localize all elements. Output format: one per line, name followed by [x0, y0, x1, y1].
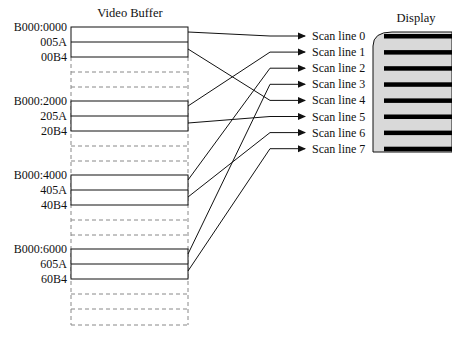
buffer-address-label: B000:6000: [14, 242, 67, 256]
buffer-address-label: 20B4: [41, 124, 67, 138]
buffer-address-label: 60B4: [41, 272, 67, 286]
buffer-bank: B000:0000005A00B4: [14, 20, 188, 64]
scan-line-label: Scan line 2: [312, 61, 365, 75]
buffer-to-scanline-arrow: [188, 149, 305, 271]
display-title: Display: [397, 11, 437, 25]
buffer-to-scanline-arrow: [188, 84, 305, 254]
scan-line-label: Scan line 0: [312, 29, 365, 43]
buffer-address-label: 205A: [40, 109, 67, 123]
scan-line-label: Scan line 4: [312, 93, 365, 107]
display-raster-line: [384, 115, 452, 120]
buffer-bank: B000:2000205A20B4: [14, 94, 188, 138]
buffer-bank: B000:6000605A60B4: [14, 242, 188, 286]
buffer-to-scanline-arrow: [188, 117, 305, 124]
connection-lines: [188, 32, 305, 271]
buffer-to-scanline-arrow: [188, 68, 305, 180]
scan-line-label: Scan line 3: [312, 77, 365, 91]
display-raster-line: [384, 82, 452, 87]
buffer-address-label: 00B4: [41, 50, 67, 64]
buffer-address-label: 40B4: [41, 198, 67, 212]
scan-line-label: Scan line 7: [312, 142, 365, 156]
scan-line-label: Scan line 6: [312, 126, 365, 140]
display-raster-line: [384, 98, 452, 103]
buffer-address-label: B000:4000: [14, 168, 67, 182]
buffer-to-scanline-arrow: [188, 49, 305, 100]
buffer-address-label: 605A: [40, 257, 67, 271]
video-buffer-title: Video Buffer: [97, 6, 163, 20]
buffer-address-label: B000:0000: [14, 20, 67, 34]
interlaced-buffer-diagram: Video Buffer Display B000:0000005A00B4B0…: [0, 0, 452, 338]
buffer-address-label: 005A: [40, 35, 67, 49]
scan-line-list: Scan line 0Scan line 1Scan line 2Scan li…: [312, 29, 365, 156]
display-raster-line: [384, 34, 452, 39]
buffer-address-label: B000:2000: [14, 94, 67, 108]
display-raster-line: [384, 131, 452, 136]
buffer-to-scanline-arrow: [188, 32, 305, 36]
video-buffer: B000:0000005A00B4B000:2000205A20B4B000:4…: [14, 20, 188, 325]
scan-line-label: Scan line 1: [312, 45, 365, 59]
buffer-bank: B000:4000405A40B4: [14, 168, 188, 212]
display-panel: [373, 32, 452, 152]
display-raster-line: [384, 147, 452, 152]
buffer-address-label: 405A: [40, 183, 67, 197]
buffer-to-scanline-arrow: [188, 133, 305, 197]
display-raster-line: [384, 50, 452, 55]
display-raster-line: [384, 66, 452, 71]
scan-line-label: Scan line 5: [312, 110, 365, 124]
